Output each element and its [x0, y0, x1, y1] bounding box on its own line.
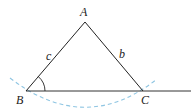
- diagram-canvas: A B C c b: [0, 0, 193, 112]
- side-b: [85, 22, 143, 91]
- angle-mark-b: [38, 77, 45, 91]
- label-side-c: c: [46, 49, 52, 63]
- label-vertex-a: A: [79, 5, 88, 19]
- label-vertex-b: B: [16, 93, 24, 107]
- label-vertex-c: C: [141, 93, 150, 107]
- side-c: [26, 22, 85, 91]
- dashed-arc: [10, 78, 157, 107]
- triangle-diagram: A B C c b: [0, 0, 193, 112]
- label-side-b: b: [119, 47, 125, 61]
